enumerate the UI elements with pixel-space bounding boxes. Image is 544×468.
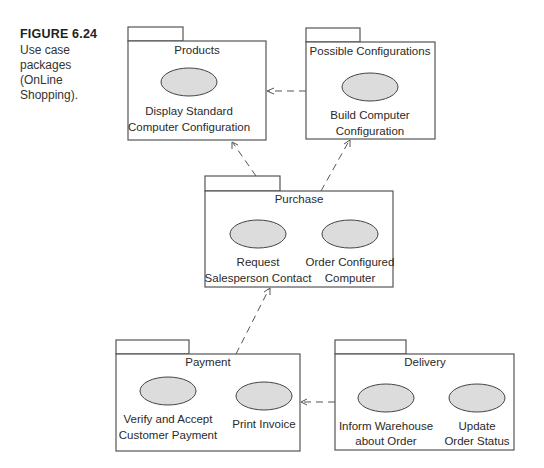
use-case-label: Build Computer: [330, 109, 409, 121]
dependency-possible-config-to-products: [267, 88, 306, 94]
package-tab: [128, 27, 183, 41]
dependency-purchase-to-possible-configurations: [321, 140, 350, 191]
dependency-purchase-to-products: [232, 142, 256, 176]
package-tab: [205, 176, 280, 191]
use-case-label: Computer: [325, 272, 376, 284]
use-case-label: Order Configured: [306, 256, 395, 268]
package-name: Possible Configurations: [310, 45, 431, 57]
package-tab: [335, 340, 406, 354]
use-case-ellipse: [342, 73, 398, 101]
use-case-label: Computer Configuration: [128, 121, 250, 133]
package-purchase[interactable]: Purchase Request Salesperson Contact Ord…: [205, 176, 395, 287]
use-case-ellipse: [236, 382, 292, 410]
use-case-ellipse: [140, 377, 196, 405]
dependency-payment-to-purchase: [236, 288, 270, 354]
package-products[interactable]: Products Display Standard Computer Confi…: [128, 27, 266, 140]
package-tab: [116, 340, 189, 354]
use-case-label: Inform Warehouse: [339, 420, 433, 432]
package-delivery[interactable]: Delivery Inform Warehouse about Order Up…: [335, 340, 514, 450]
use-case-label: Customer Payment: [119, 429, 218, 441]
use-case-label: Print Invoice: [232, 418, 295, 430]
dependency-delivery-to-payment: [301, 399, 335, 405]
use-case-label: Order Status: [444, 435, 509, 447]
use-case-label: Verify and Accept: [124, 413, 214, 425]
package-name: Delivery: [404, 356, 446, 368]
use-case-ellipse: [230, 220, 286, 248]
package-tab: [306, 28, 360, 42]
use-case-ellipse: [358, 384, 414, 412]
use-case-label: Update: [458, 420, 495, 432]
use-case-package-diagram: Products Display Standard Computer Confi…: [0, 0, 544, 468]
use-case-label: Request: [237, 256, 281, 268]
package-name: Products: [174, 44, 220, 56]
use-case-ellipse: [449, 384, 505, 412]
package-possible-configurations[interactable]: Possible Configurations Build Computer C…: [306, 28, 435, 139]
package-name: Payment: [185, 356, 231, 368]
use-case-label: Configuration: [336, 125, 404, 137]
package-name: Purchase: [275, 193, 324, 205]
use-case-label: Display Standard: [145, 105, 233, 117]
use-case-ellipse: [322, 220, 378, 248]
use-case-ellipse: [161, 68, 217, 96]
use-case-label: about Order: [355, 435, 417, 447]
use-case-label: Salesperson Contact: [205, 272, 313, 284]
package-payment[interactable]: Payment Verify and Accept Customer Payme…: [116, 340, 300, 451]
